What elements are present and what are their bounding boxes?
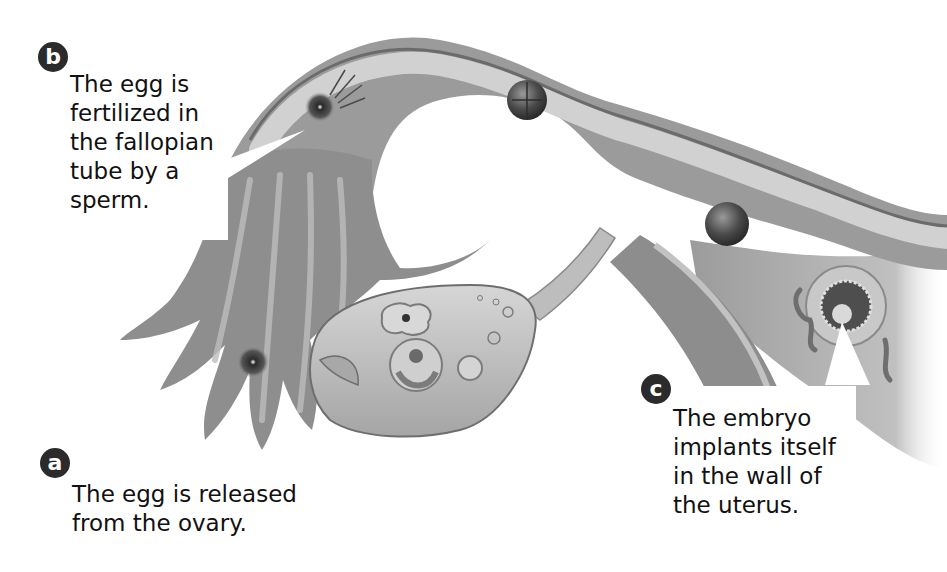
morula [705,202,749,246]
label-text-ovulation: The egg is released from the ovary. [72,480,297,538]
diagram-canvas: b The egg is fertilized in the fallopian… [0,0,947,572]
label-badge-a: a [40,448,70,478]
fertilized-egg [305,92,335,122]
label-badge-c: c [641,374,671,404]
label-badge-b: b [38,42,68,72]
dividing-cell-cluster [507,80,547,120]
ovarian-ligament [520,228,615,320]
label-text-implantation: The embryo implants itself in the wall o… [673,404,836,520]
released-egg [237,346,269,378]
label-text-fertilization: The egg is fertilized in the fallopian t… [70,70,214,215]
